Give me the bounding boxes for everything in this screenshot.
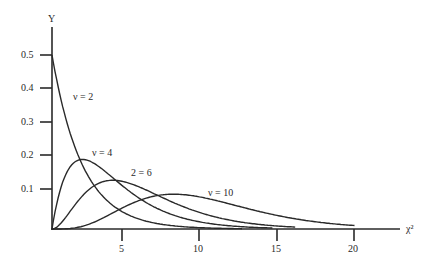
curve-nu-10	[52, 194, 355, 229]
label-nu-4: ν = 4	[92, 147, 112, 158]
label-nu-2: ν = 2	[73, 91, 93, 102]
svg-text:20: 20	[348, 243, 358, 254]
svg-text:10: 10	[193, 243, 203, 254]
svg-text:0.5: 0.5	[21, 49, 34, 60]
chi-square-chart: 0.5 0.4 0.3 0.2 0.1 5 10 15 20 Y χ² ν = …	[0, 0, 434, 266]
svg-text:0.3: 0.3	[21, 116, 34, 127]
label-nu-6: 2 = 6	[131, 167, 152, 178]
svg-text:15: 15	[271, 243, 281, 254]
y-axis-label: Y	[48, 13, 55, 24]
y-ticks	[40, 55, 52, 189]
svg-text:0.4: 0.4	[21, 82, 34, 93]
svg-text:0.1: 0.1	[21, 183, 34, 194]
x-axis-label: χ²	[405, 223, 413, 234]
curve-nu-6	[52, 180, 295, 229]
label-nu-10: ν = 10	[208, 187, 233, 198]
svg-text:5: 5	[119, 243, 124, 254]
y-tick-labels: 0.5 0.4 0.3 0.2 0.1	[21, 49, 34, 194]
x-ticks	[122, 229, 354, 241]
x-tick-labels: 5 10 15 20	[119, 243, 358, 254]
svg-text:0.2: 0.2	[21, 149, 34, 160]
